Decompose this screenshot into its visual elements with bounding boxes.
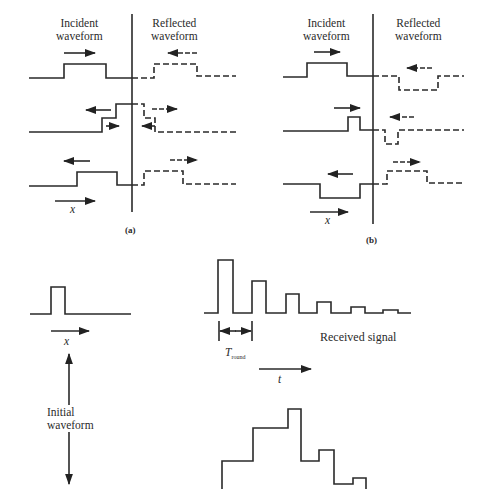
initial-waveform bbox=[30, 287, 131, 314]
initial-waveform-label-line1: Initial bbox=[47, 406, 94, 419]
panel-a-reflected-label-line1: Reflected bbox=[151, 17, 198, 30]
panel-a-reflected-label-line2: waveform bbox=[151, 30, 198, 43]
panel-b-incident-label-line2: waveform bbox=[303, 30, 350, 43]
panel-a-caption: (a) bbox=[125, 224, 136, 237]
panel-a-reflected-label: Reflected waveform bbox=[151, 17, 198, 43]
panel-a-row2-incident bbox=[29, 104, 132, 132]
panel-b-incident-label-line1: Incident bbox=[303, 17, 350, 30]
panel-b-row3-reflected bbox=[373, 171, 464, 184]
panel-b-row1-incident bbox=[283, 63, 373, 77]
panel-a-incident-label-line2: waveform bbox=[56, 30, 103, 43]
t-round-label: Tround bbox=[225, 346, 245, 364]
initial-x-label: x bbox=[64, 335, 69, 348]
time-axis-label: t bbox=[278, 373, 281, 386]
panel-b-reflected-label: Reflected waveform bbox=[395, 17, 442, 43]
panel-b-row2-incident bbox=[283, 117, 373, 131]
panel-a-x-label: x bbox=[70, 203, 75, 216]
panel-b-row1-reflected bbox=[373, 76, 464, 90]
initial-waveform-label: Initial waveform bbox=[47, 406, 94, 432]
panel-a-row3-incident bbox=[29, 172, 132, 186]
panel-a-incident-label: Incident waveform bbox=[56, 17, 103, 43]
panel-b-incident-label: Incident waveform bbox=[303, 17, 350, 43]
panel-a-row1-reflected bbox=[132, 64, 236, 78]
panel-b-reflected-label-line2: waveform bbox=[395, 30, 442, 43]
panel-b-caption: (b) bbox=[366, 234, 377, 247]
panel-a-row2-reflected bbox=[132, 104, 236, 132]
panel-b-x-label: x bbox=[325, 214, 330, 227]
panel-a-incident-label-line1: Incident bbox=[56, 17, 103, 30]
panel-a-row3-reflected bbox=[132, 171, 236, 185]
panel-b-row3-incident bbox=[283, 184, 373, 198]
staircase-waveform bbox=[222, 409, 366, 489]
initial-waveform-label-line2: waveform bbox=[47, 419, 94, 432]
received-signal bbox=[204, 260, 411, 313]
panel-b-reflected-label-line1: Reflected bbox=[395, 17, 442, 30]
panel-b-row2-reflected bbox=[373, 130, 464, 144]
panel-a-row1-incident bbox=[29, 64, 132, 78]
t-round-subscript: round bbox=[231, 354, 245, 360]
received-signal-label: Received signal bbox=[320, 331, 396, 344]
